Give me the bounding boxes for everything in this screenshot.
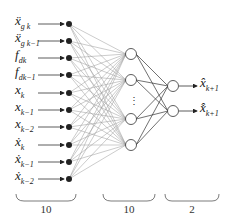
input-label: ẍg k [15,14,30,31]
hidden-count: 10 [109,203,149,215]
input-label: ẍg k−1 [15,31,40,48]
input-node [66,72,72,78]
input-node [66,124,72,130]
input-node [66,142,72,148]
output-count: 2 [172,203,212,215]
input-node [66,38,72,44]
output-label: x̂̇k+1 [200,101,219,118]
input-node [66,90,72,96]
input-label: fdk−1 [15,65,36,82]
hidden-node [126,114,137,125]
hidden-ellipsis: ⋮ [129,95,139,106]
input-label: ẋk [15,135,24,152]
input-label: xk−1 [15,100,34,117]
hidden-node [126,75,137,86]
hidden-node [126,140,137,151]
input-count: 10 [26,203,66,215]
input-label: ẋk−2 [15,169,34,186]
input-node [66,159,72,165]
output-node [168,81,179,92]
input-node [66,21,72,27]
input-label: xk [15,83,24,100]
output-brace [165,194,219,201]
output-node [168,106,179,117]
output-label: x̂k+1 [200,76,219,93]
hidden-node [126,49,137,60]
hidden-brace [103,194,155,201]
input-brace [16,194,76,201]
input-label: ẋk−1 [15,152,34,169]
input-label: fdk [15,48,26,65]
input-node [66,55,72,61]
input-node [66,107,72,113]
input-label: xk−2 [15,117,34,134]
input-node [66,176,72,182]
